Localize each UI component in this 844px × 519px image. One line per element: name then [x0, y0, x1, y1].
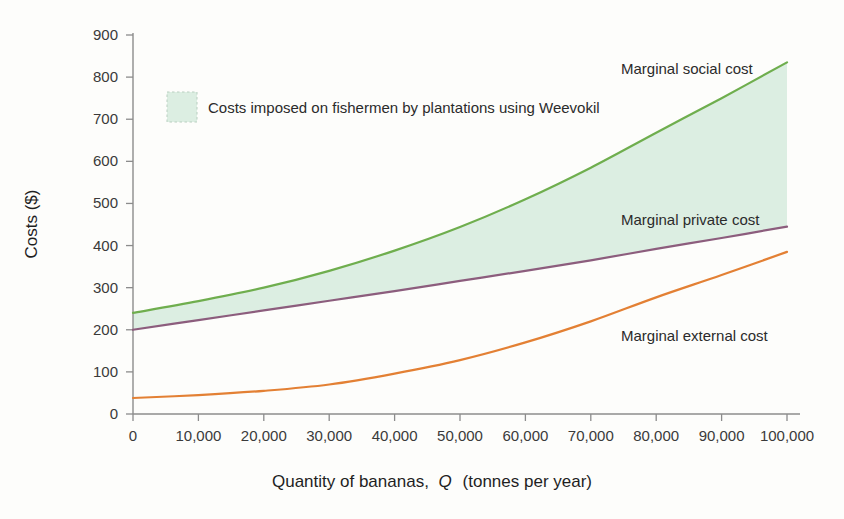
- x-tick-label: 70,000: [568, 427, 614, 444]
- cost-curves-chart: 0100200300400500600700800900 010,00020,0…: [0, 0, 844, 519]
- marginal-private-cost-label: Marginal private cost: [621, 211, 760, 228]
- y-tick-label: 500: [93, 194, 118, 211]
- x-axis-title: Quantity of bananas, Q (tonnes per year): [272, 472, 592, 491]
- x-tick-label: 90,000: [699, 427, 745, 444]
- y-tick-label: 300: [93, 279, 118, 296]
- marginal-social-cost-label: Marginal social cost: [621, 60, 754, 77]
- y-tick-label: 0: [110, 405, 118, 422]
- x-tick-label: 60,000: [502, 427, 548, 444]
- y-tick-label: 900: [93, 26, 118, 43]
- x-tick-label: 20,000: [241, 427, 287, 444]
- x-tick-label: 100,000: [760, 427, 814, 444]
- y-tick-label: 700: [93, 110, 118, 127]
- y-tick-label: 800: [93, 68, 118, 85]
- y-tick-label: 100: [93, 363, 118, 380]
- x-axis-title-italic: Q: [439, 472, 452, 491]
- x-tick-label: 50,000: [437, 427, 483, 444]
- x-tick-label: 10,000: [175, 427, 221, 444]
- marginal-external-cost-label: Marginal external cost: [621, 327, 769, 344]
- y-tick-label: 600: [93, 152, 118, 169]
- x-tick-label: 0: [129, 427, 137, 444]
- x-tick-label: 40,000: [372, 427, 418, 444]
- x-tick-label: 30,000: [306, 427, 352, 444]
- y-axis-title: Costs ($): [22, 190, 41, 259]
- y-tick-label: 400: [93, 237, 118, 254]
- x-tick-label: 80,000: [633, 427, 679, 444]
- legend-label: Costs imposed on fishermen by plantation…: [208, 99, 600, 116]
- x-axis-title-tail: (tonnes per year): [463, 472, 592, 491]
- x-axis-title-plain: Quantity of bananas,: [272, 472, 429, 491]
- shaded-area-swatch: [167, 92, 197, 122]
- y-tick-label: 200: [93, 321, 118, 338]
- chart-figure: 0100200300400500600700800900 010,00020,0…: [0, 0, 844, 519]
